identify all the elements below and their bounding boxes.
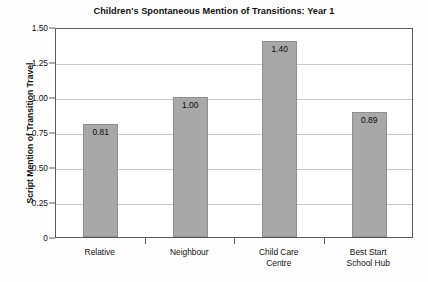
bar: 1.40 — [262, 41, 297, 237]
x-axis-category-label-line: Relative — [55, 247, 145, 258]
gridline — [56, 64, 412, 65]
bar-value-label: 0.89 — [353, 115, 386, 125]
bar-value-label: 1.00 — [174, 100, 207, 110]
y-axis-tick-label: 0.75 — [2, 128, 48, 138]
bar-chart-figure: Children's Spontaneous Mention of Transi… — [0, 0, 428, 282]
y-axis-tick-mark — [49, 98, 55, 99]
x-axis-tick-mark — [145, 238, 146, 244]
y-axis-tick-mark — [49, 133, 55, 134]
y-axis-tick-mark — [49, 168, 55, 169]
x-axis-tick-mark — [234, 238, 235, 244]
y-axis-tick-mark — [49, 238, 55, 239]
y-axis-tick-label: 1.50 — [2, 23, 48, 33]
bar: 0.89 — [352, 112, 387, 237]
x-axis-category-label-line: School Hub — [324, 258, 414, 269]
x-axis-category-label-line: Centre — [234, 258, 324, 269]
bar-value-label: 1.40 — [263, 44, 296, 54]
y-axis-tick-mark — [49, 28, 55, 29]
y-axis-tick-label: 0.50 — [2, 163, 48, 173]
x-axis-category-label-line: Best Start — [324, 247, 414, 258]
y-axis-tick-label: 0.25 — [2, 198, 48, 208]
x-axis-category-label: Relative — [55, 247, 145, 258]
plot-area: 0.811.001.400.89 — [55, 28, 413, 238]
gridline — [56, 99, 412, 100]
y-axis-tick-label: 1.00 — [2, 93, 48, 103]
bar: 0.81 — [83, 124, 118, 237]
y-axis-tick-mark — [49, 63, 55, 64]
y-axis-tick-mark — [49, 203, 55, 204]
x-axis-category-label-line: Neighbour — [145, 247, 235, 258]
x-axis-category-label: Best StartSchool Hub — [324, 247, 414, 269]
bar-value-label: 0.81 — [84, 127, 117, 137]
y-axis-tick-label: 0 — [2, 233, 48, 243]
chart-title: Children's Spontaneous Mention of Transi… — [0, 6, 428, 16]
bar: 1.00 — [173, 97, 208, 237]
y-axis-tick-label: 1.25 — [2, 58, 48, 68]
x-axis-tick-mark — [324, 238, 325, 244]
x-axis-category-label: Child CareCentre — [234, 247, 324, 269]
x-axis-category-label: Neighbour — [145, 247, 235, 258]
x-axis-category-label-line: Child Care — [234, 247, 324, 258]
